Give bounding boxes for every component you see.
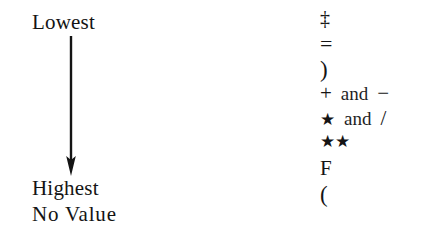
- symbol-row: =: [320, 33, 445, 58]
- equals-icon: =: [320, 33, 332, 55]
- plus-icon: +: [320, 83, 332, 104]
- symbol-row: (: [320, 183, 445, 208]
- scale-label-lowest: Lowest: [32, 12, 95, 33]
- symbol-ranking-legend: Lowest Highest No Value ‡ = ) + and − ★ …: [0, 0, 445, 236]
- symbol-row: F: [320, 158, 445, 183]
- symbol-row: ★★: [320, 133, 445, 158]
- scale-label-no-value: No Value: [32, 204, 117, 225]
- letter-f-icon: F: [320, 158, 332, 179]
- symbol-row: ‡: [320, 8, 445, 33]
- left-parenthesis-icon: (: [320, 183, 328, 206]
- star-icon: ★: [320, 111, 335, 128]
- symbol-row: ): [320, 58, 445, 83]
- double-star-icon: ★★: [320, 133, 349, 150]
- scale-label-highest: Highest: [32, 178, 99, 199]
- conjunction-label: and: [341, 84, 368, 103]
- symbol-list: ‡ = ) + and − ★ and / ★★ F (: [320, 8, 445, 208]
- downward-arrow-icon: [60, 36, 82, 176]
- minus-icon: −: [377, 83, 389, 104]
- slash-icon: /: [380, 108, 386, 129]
- double-dagger-icon: ‡: [320, 8, 330, 28]
- right-parenthesis-icon: ): [320, 58, 328, 81]
- conjunction-label: and: [344, 109, 371, 128]
- symbol-row: + and −: [320, 83, 445, 108]
- symbol-row: ★ and /: [320, 108, 445, 133]
